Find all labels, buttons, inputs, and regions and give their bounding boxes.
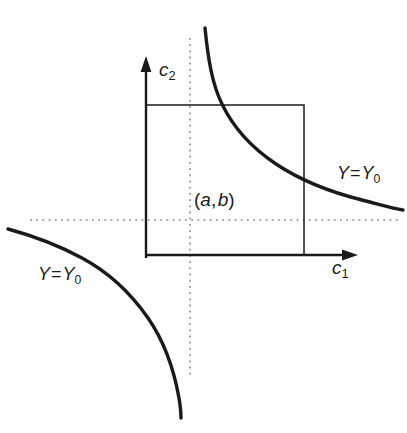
isoquant-curve-lower [8,229,181,418]
y-axis-label: c2 [159,60,176,79]
budget-rectangle [146,105,304,255]
isoquant-label-lower-equals: = [50,264,63,284]
isoquant-label-lower-subscript: 0 [75,273,82,287]
y-axis-arrowhead-icon [141,56,152,72]
x-axis-label: c1 [332,258,349,277]
isoquant-label-lower: Y=Y0 [38,265,81,283]
isoquant-label-lower-rhs: Y [63,264,75,284]
point-label-comma: , [211,189,216,210]
point-label-b: b [218,189,229,210]
y-axis-label-subscript: 2 [169,68,176,83]
point-label-a: a [200,189,211,210]
isoquant-label-upper-equals: = [349,163,362,183]
isoquant-figure: c2 c1 Y=Y0 Y=Y0 (a, b) [0,0,407,433]
y-axis-label-var: c [159,59,169,80]
x-axis-label-var: c [332,257,342,278]
isoquant-label-lower-lhs: Y [38,264,50,284]
isoquant-label-upper: Y=Y0 [337,164,380,182]
isoquant-label-upper-lhs: Y [337,163,349,183]
figure-canvas [0,0,407,433]
point-label: (a, b) [194,190,235,209]
axes [141,56,358,260]
point-label-close-paren: ) [228,189,234,210]
isoquant-label-upper-subscript: 0 [374,172,381,186]
isoquant-label-upper-rhs: Y [362,163,374,183]
x-axis-label-subscript: 1 [342,266,349,281]
